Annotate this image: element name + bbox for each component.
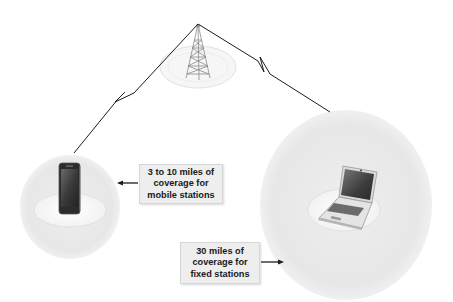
tower-node: [160, 24, 236, 88]
wireless-link-tower-to-mobile: [74, 24, 198, 153]
fixed-label-line-3: fixed stations: [181, 269, 259, 281]
mobile-label-line-1: 3 to 10 miles of: [140, 167, 222, 179]
fixed-label-line-2: coverage for: [181, 257, 259, 269]
fixed-label-line-1: 30 miles of: [181, 246, 259, 258]
mobile-phone-icon: [59, 163, 80, 214]
mobile-label-line-2: coverage for: [140, 178, 222, 190]
mobile-label-line-3: mobile stations: [140, 190, 222, 202]
mobile-station-node: [20, 155, 120, 259]
mobile-coverage-label: 3 to 10 miles of coverage for mobile sta…: [139, 164, 223, 204]
fixed-station-node: [260, 110, 432, 300]
arrow-to-mobile-zone: [117, 181, 138, 186]
fixed-coverage-label: 30 miles of coverage for fixed stations: [180, 242, 260, 284]
